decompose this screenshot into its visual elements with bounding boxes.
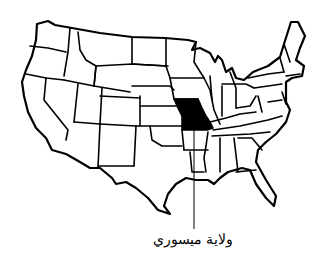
missouri-callout-label: ولاية ميسوري (140, 229, 246, 249)
us-outline (22, 21, 305, 214)
